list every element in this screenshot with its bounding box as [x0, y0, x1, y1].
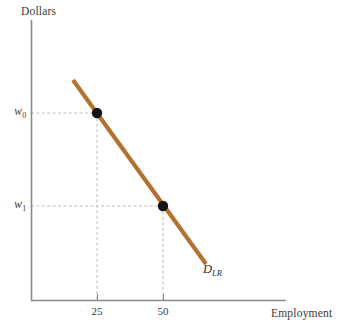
curve-label-subscript: LR — [212, 268, 222, 278]
y-tick-w1-main: w — [14, 198, 22, 210]
y-tick-label-w0: w0 — [2, 105, 26, 117]
x-tick-label-25: 25 — [84, 305, 110, 317]
x-tick-label-50: 50 — [150, 305, 176, 317]
x-axis-title: Employment — [271, 307, 332, 319]
data-point-w0-25 — [92, 108, 102, 118]
y-tick-label-w1: w1 — [2, 198, 26, 210]
y-tick-w1-subscript: 1 — [22, 204, 26, 213]
data-point-w1-50 — [158, 201, 168, 211]
y-axis-title: Dollars — [21, 5, 56, 17]
curve-label-main: D — [203, 262, 212, 276]
curve-label-dlr: DLR — [203, 262, 222, 277]
y-tick-w0-main: w — [14, 105, 22, 117]
y-tick-w0-subscript: 0 — [22, 111, 26, 120]
labor-demand-chart — [0, 0, 340, 324]
chart-background — [0, 0, 340, 324]
